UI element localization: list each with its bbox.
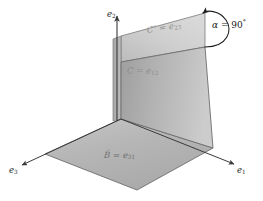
angle-arc-path: [203, 11, 229, 47]
coordinate-frame-diagram: [0, 0, 263, 201]
figure-container: e1 e2 e3 B̂ = e31 C = e12 C″ = e23 α = 9…: [0, 0, 263, 201]
